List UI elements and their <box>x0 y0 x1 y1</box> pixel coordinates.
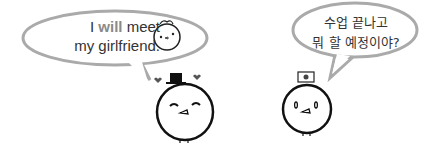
right-bubble-text: 수업 끝나고 뭐 할 예정이야? <box>300 13 412 53</box>
text-segment: meet <box>122 18 160 35</box>
right-bubble-line1: 수업 끝나고 <box>300 13 412 33</box>
character-korean-flag <box>283 72 331 136</box>
left-bubble-line1: I will meet <box>60 17 160 36</box>
left-bubble-line2: my girlfriend. <box>60 36 160 55</box>
heart-icon <box>154 78 162 84</box>
top-hat-icon <box>170 73 182 83</box>
left-bubble-text: I will meet my girlfriend. <box>60 17 160 55</box>
right-bubble-line2: 뭐 할 예정이야? <box>300 33 412 53</box>
highlight-word-will: will <box>98 18 122 35</box>
heart-icon <box>193 75 201 81</box>
character-top-hat <box>154 73 213 143</box>
